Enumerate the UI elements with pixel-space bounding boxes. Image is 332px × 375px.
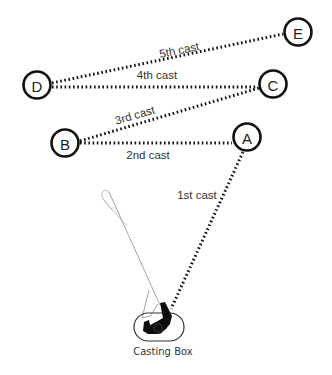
cast-label-3: 3rd cast xyxy=(114,104,157,127)
cast-label-1: 1st cast xyxy=(177,189,217,201)
svg-text:C: C xyxy=(268,77,279,94)
target-c: C xyxy=(260,71,287,98)
cast-label-2: 2nd cast xyxy=(126,149,170,161)
target-d: D xyxy=(24,72,51,99)
svg-text:B: B xyxy=(60,136,70,153)
casting-box-label: Casting Box xyxy=(133,346,193,357)
cast-line-3 xyxy=(80,88,259,141)
fly-line-icon xyxy=(102,190,160,305)
target-a: A xyxy=(234,124,261,151)
svg-text:E: E xyxy=(293,25,303,42)
cast-label-4: 4th cast xyxy=(137,69,178,81)
target-b: B xyxy=(52,130,79,157)
casting-sequence-diagram: 5th cast 4th cast 3rd cast 2nd cast 1st … xyxy=(0,0,332,375)
svg-text:A: A xyxy=(242,130,252,147)
cast-line-1 xyxy=(171,152,243,309)
caster-figure-icon xyxy=(143,302,172,334)
casting-box: Casting Box xyxy=(133,302,193,357)
target-e: E xyxy=(285,19,312,46)
svg-text:D: D xyxy=(32,78,43,95)
